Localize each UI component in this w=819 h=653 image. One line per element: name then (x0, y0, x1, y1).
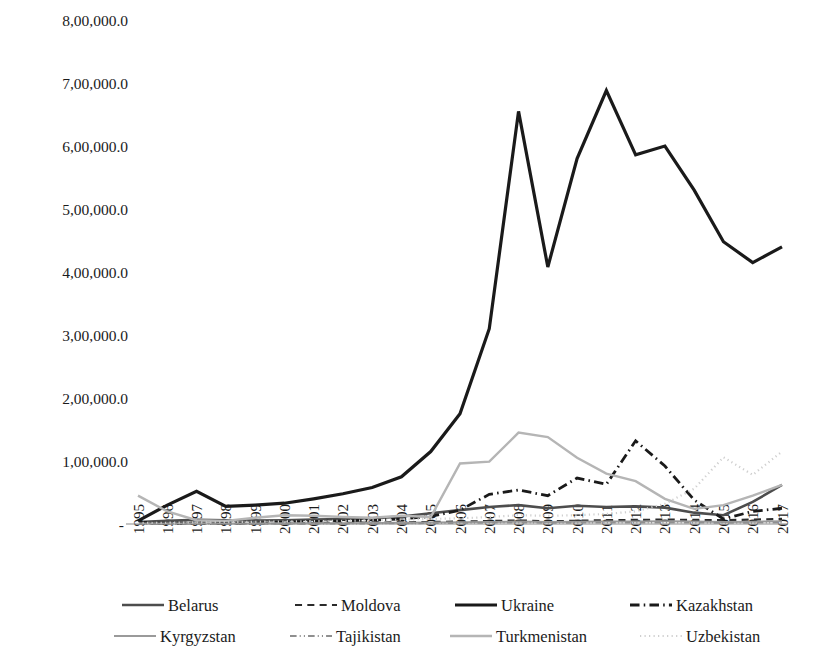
x-tick-label: 2006 (453, 504, 469, 535)
y-tick-label: 7,00,000.0 (62, 75, 128, 92)
chart-canvas: 8,00,000.07,00,000.06,00,000.05,00,000.0… (0, 0, 819, 653)
legend-label-ukraine[interactable]: Ukraine (501, 596, 554, 615)
legend-label-turkmenistan[interactable]: Turkmenistan (496, 627, 587, 646)
legend-label-moldova[interactable]: Moldova (341, 596, 401, 615)
y-tick-label: 2,00,000.0 (62, 390, 128, 407)
y-axis-tick-labels: 8,00,000.07,00,000.06,00,000.05,00,000.0… (62, 12, 128, 534)
legend-label-belarus[interactable]: Belarus (168, 596, 218, 615)
data-series-group (138, 91, 782, 524)
line-chart: 8,00,000.07,00,000.06,00,000.05,00,000.0… (0, 0, 819, 653)
legend-label-tajikistan[interactable]: Tajikistan (336, 627, 401, 646)
y-tick-label: 6,00,000.0 (62, 138, 128, 155)
x-tick-label: 2010 (570, 504, 586, 534)
x-tick-label: 2008 (511, 504, 527, 534)
legend-label-kazakhstan[interactable]: Kazakhstan (676, 596, 753, 615)
y-tick-label: 3,00,000.0 (62, 327, 128, 344)
y-tick-label: 5,00,000.0 (62, 201, 128, 218)
y-tick-label: 1,00,000.0 (62, 453, 128, 470)
legend-label-kyrgyzstan[interactable]: Kyrgyzstan (160, 627, 236, 646)
series-line-ukraine (138, 91, 782, 521)
y-tick-label: 8,00,000.0 (62, 12, 128, 29)
chart-legend: BelarusMoldovaUkraineKazakhstanKyrgyzsta… (114, 596, 760, 646)
y-tick-label: 4,00,000.0 (62, 264, 128, 281)
y-tick-label: - (119, 516, 124, 533)
legend-label-uzbekistan[interactable]: Uzbekistan (686, 627, 760, 646)
